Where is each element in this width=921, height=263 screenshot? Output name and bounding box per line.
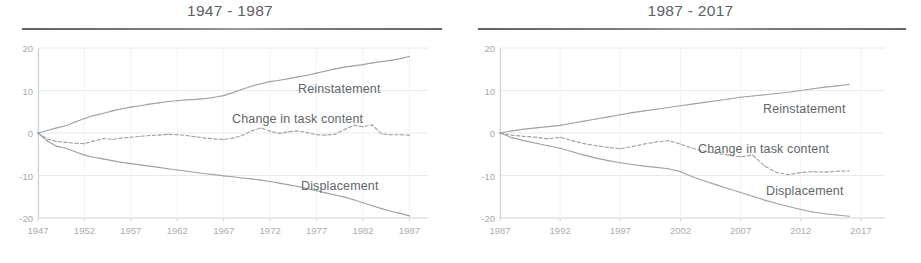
series-marker <box>56 145 58 147</box>
series-marker <box>242 177 244 179</box>
series-marker <box>334 134 336 136</box>
series-marker <box>740 156 742 158</box>
series-marker <box>409 56 411 58</box>
series-marker <box>353 199 355 201</box>
series-marker <box>130 106 132 108</box>
title-divider-right <box>478 28 906 30</box>
series-marker <box>325 134 327 136</box>
series-marker <box>251 130 253 132</box>
series-marker <box>251 178 253 180</box>
series-marker <box>596 118 598 120</box>
y-tick-label: -20 <box>481 213 495 224</box>
series-marker <box>56 127 58 128</box>
series-marker <box>223 139 225 141</box>
series-marker <box>571 140 573 142</box>
chart-panel-right: 1987 - 2017 20100-10-2019871992199720022… <box>460 0 921 263</box>
series-marker <box>836 85 838 87</box>
series-marker <box>390 210 392 212</box>
series-marker <box>167 134 169 136</box>
x-tick-label: 1992 <box>550 225 571 236</box>
series-marker <box>297 130 299 132</box>
series-marker <box>632 164 634 166</box>
series-marker <box>559 137 561 139</box>
series-marker <box>716 100 718 102</box>
series-marker <box>139 164 141 166</box>
series-marker <box>499 132 501 134</box>
y-tick-label: 20 <box>22 43 33 54</box>
series-marker <box>195 172 197 174</box>
series-marker <box>596 157 598 159</box>
x-tick-label: 1947 <box>27 225 48 236</box>
series-marker <box>74 121 76 123</box>
series-marker <box>47 130 49 132</box>
series-marker <box>214 174 216 176</box>
series-marker <box>381 133 383 135</box>
series-marker <box>288 78 290 80</box>
series-marker <box>824 86 826 88</box>
series-marker <box>297 186 299 188</box>
title-divider-left <box>22 28 442 30</box>
series-marker <box>644 110 646 112</box>
series-marker <box>399 134 401 136</box>
series-marker <box>824 171 826 173</box>
series-marker <box>204 137 206 139</box>
series-marker <box>547 145 549 147</box>
series-marker <box>632 146 634 148</box>
series-marker <box>656 108 658 110</box>
series-marker <box>680 105 682 107</box>
series-marker <box>269 131 271 133</box>
series-marker <box>668 168 670 170</box>
series-marker <box>84 154 86 156</box>
series-marker <box>288 131 290 133</box>
y-tick-label: 20 <box>484 43 495 54</box>
series-marker <box>139 105 141 107</box>
series-marker <box>571 122 573 124</box>
series-marker <box>680 171 682 173</box>
series-marker <box>800 90 802 92</box>
series-marker <box>102 113 104 115</box>
series-marker <box>84 118 86 120</box>
series-marker <box>644 143 646 145</box>
series-label-reinstatement-right: Reinstatement <box>763 102 846 116</box>
series-marker <box>656 141 658 143</box>
series-marker <box>409 215 411 217</box>
x-tick-label: 1962 <box>167 225 188 236</box>
x-tick-label: 1987 <box>399 225 420 236</box>
series-marker <box>511 130 513 132</box>
series-marker <box>344 129 346 131</box>
panel-title-left: 1947 - 1987 <box>0 2 460 20</box>
series-marker <box>130 163 132 165</box>
series-marker <box>65 125 67 127</box>
series-marker <box>728 98 730 100</box>
series-marker <box>37 132 39 134</box>
series-marker <box>704 180 706 182</box>
series-marker <box>223 175 225 177</box>
x-tick-label: 2012 <box>790 225 811 236</box>
y-tick-label: -10 <box>481 170 495 181</box>
series-label-displacement-right: Displacement <box>766 184 844 198</box>
series-marker <box>316 72 318 74</box>
series-marker <box>65 148 67 150</box>
series-marker <box>186 171 188 173</box>
series-marker <box>399 58 401 60</box>
y-tick-label: 10 <box>484 85 495 96</box>
series-marker <box>93 115 95 117</box>
series-marker <box>232 176 234 178</box>
series-marker <box>74 142 76 144</box>
series-marker <box>93 140 95 142</box>
series-marker <box>788 206 790 208</box>
series-marker <box>399 213 401 215</box>
series-marker <box>608 147 610 149</box>
x-tick-label: 2017 <box>850 225 871 236</box>
series-marker <box>186 99 188 101</box>
series-marker <box>752 196 754 198</box>
series-marker <box>84 143 86 145</box>
series-marker <box>535 137 537 139</box>
series-marker <box>620 114 622 116</box>
series-marker <box>269 181 271 183</box>
series-marker <box>752 95 754 97</box>
series-marker <box>344 66 346 68</box>
series-marker <box>644 165 646 167</box>
series-marker <box>121 137 123 139</box>
series-marker <box>139 136 141 138</box>
